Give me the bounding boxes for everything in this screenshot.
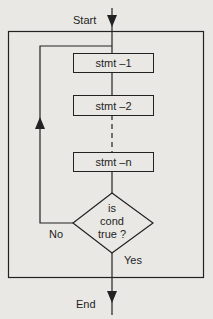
end-label: End [76, 299, 96, 310]
statement-box-2: stmt –2 [73, 95, 154, 116]
decision-text: is cond true ? [82, 202, 142, 241]
loop-arrow-up-icon [35, 117, 45, 129]
decision-line-1: is [82, 202, 142, 215]
flowchart-canvas: Start stmt –1 stmt –2 stmt –n is cond tr… [0, 0, 213, 319]
no-branch-label: No [49, 229, 63, 240]
start-arrow-icon [107, 15, 117, 27]
decision-line-3: true ? [82, 228, 142, 241]
decision-line-2: cond [82, 215, 142, 228]
end-arrow-icon [107, 291, 117, 303]
start-label: Start [73, 15, 96, 26]
statement-box-n: stmt –n [73, 152, 154, 172]
yes-branch-label: Yes [124, 255, 142, 266]
statement-box-1: stmt –1 [73, 53, 154, 73]
